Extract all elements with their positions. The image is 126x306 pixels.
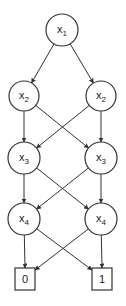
edge-n1-to-n2L: [32, 44, 55, 83]
edge-n4R-to-t0: [35, 229, 88, 270]
node-n3R: x3: [85, 142, 117, 174]
terminal-label: 1: [99, 273, 105, 285]
edge-n1-to-n2R: [70, 44, 93, 83]
edge-n4L-to-t1: [37, 229, 92, 270]
edge-n2L-to-n3R: [36, 105, 89, 148]
edge-n4R-to-t1: [101, 235, 102, 268]
terminals-layer: 01: [15, 268, 112, 290]
terminal-0: 0: [15, 268, 35, 290]
node-n1: x1: [46, 14, 78, 46]
terminal-1: 1: [92, 268, 112, 290]
node-n3L: x3: [8, 142, 40, 174]
node-n2R: x2: [86, 81, 116, 111]
edge-n4L-to-t0: [24, 235, 25, 268]
node-n4R: x4: [85, 203, 117, 235]
bdd-diagram: x1x2x2x3x3x4x4 01: [0, 0, 126, 306]
node-n4L: x4: [8, 203, 40, 235]
node-n2L: x2: [9, 81, 39, 111]
terminal-label: 0: [22, 273, 28, 285]
edge-n2R-to-n3L: [37, 105, 90, 148]
